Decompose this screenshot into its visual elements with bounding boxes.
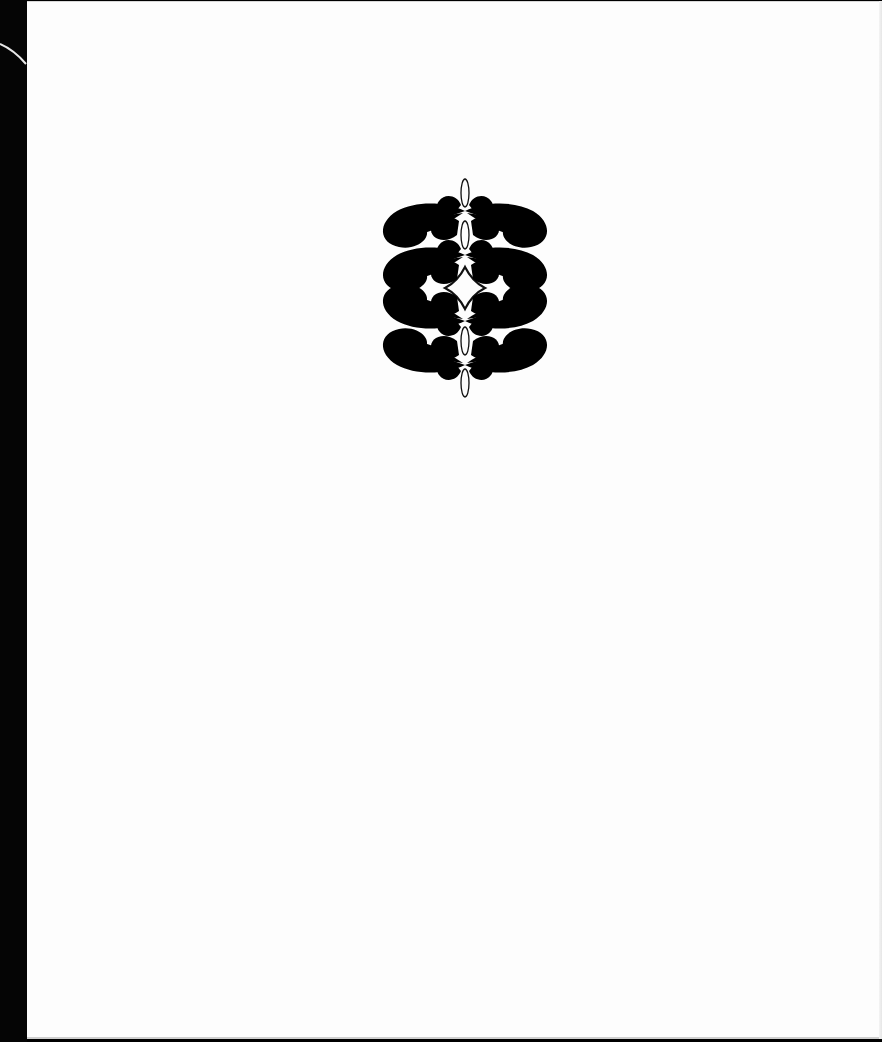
book-page: [27, 1, 882, 1039]
flourish-ornament-icon: [375, 177, 555, 399]
book-binding-shadow: [0, 0, 27, 1042]
page-curl-edge: [0, 40, 30, 70]
